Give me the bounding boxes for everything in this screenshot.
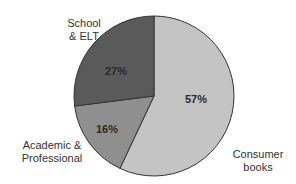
percent-consumer-books: 57%: [185, 93, 207, 105]
percent-academic-professional: 16%: [96, 123, 118, 135]
label-consumer-books: Consumer books: [226, 148, 290, 174]
label-school-elt: School & ELT: [54, 17, 114, 43]
label-academic-professional: Academic & Professional: [12, 139, 92, 165]
percent-school-elt: 27%: [105, 65, 127, 77]
